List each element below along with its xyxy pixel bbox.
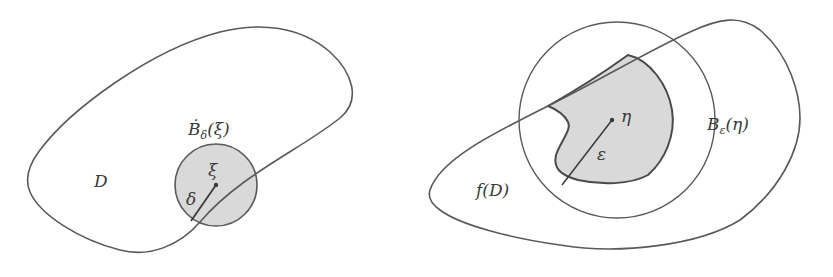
ball-delta-label: Ḃδ(ξ) [187,119,230,142]
region-d-label: D [93,171,108,191]
right-panel: f(D) Bε(η) η ε [429,20,800,249]
left-panel: D Ḃδ(ξ) ξ δ [28,27,353,252]
center-xi-label: ξ [208,160,219,180]
center-point-xi [214,183,218,187]
center-eta-label: η [621,106,632,126]
region-d-boundary [28,27,353,252]
open-mapping-diagram: D Ḃδ(ξ) ξ δ f(D) Bε(η) η ε [0,0,833,277]
center-point-eta [610,118,614,122]
radius-epsilon-label: ε [597,144,606,164]
region-fd-label: f(D) [474,180,509,200]
ball-epsilon-label: Bε(η) [706,114,749,137]
radius-delta-label: δ [186,189,196,209]
